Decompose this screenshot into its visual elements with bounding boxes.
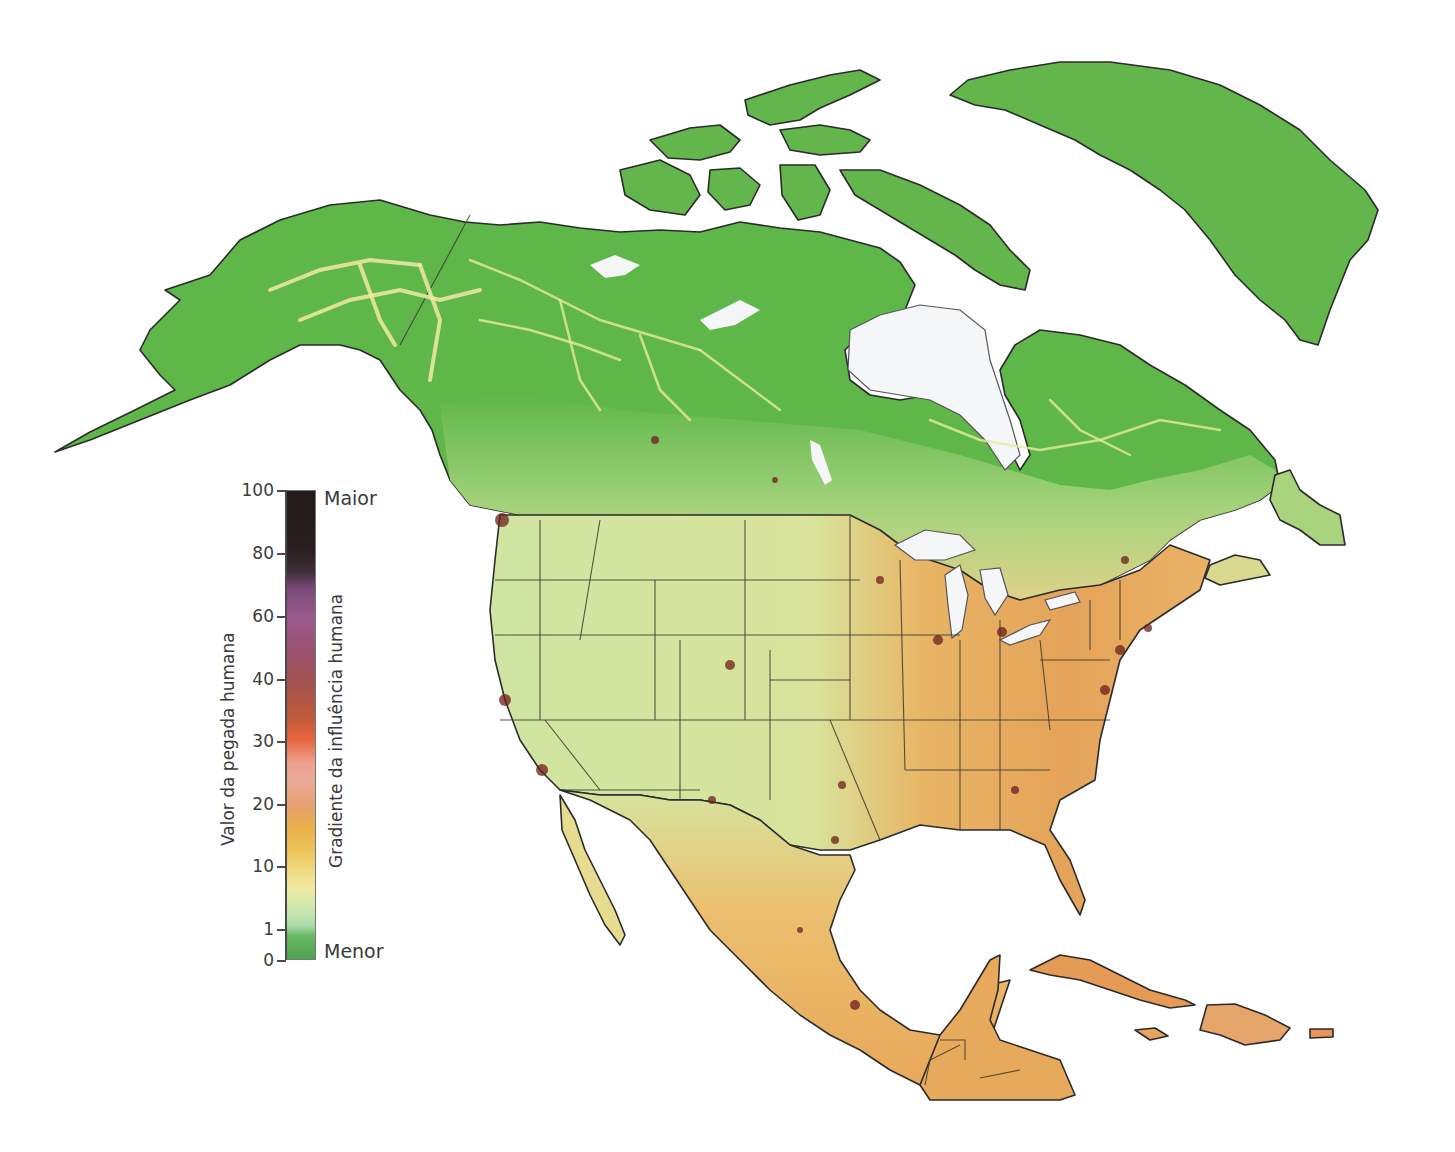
arctic-islands: [780, 165, 830, 220]
arctic-islands: [745, 70, 880, 125]
hispaniola: [1200, 1004, 1290, 1045]
newfoundland: [1270, 470, 1345, 545]
jamaica: [1135, 1028, 1168, 1040]
arctic-islands: [780, 125, 870, 155]
central-america: [920, 955, 1075, 1100]
arctic-islands: [620, 160, 700, 215]
greenland: [950, 62, 1378, 345]
nova-scotia: [1205, 555, 1270, 585]
north-america-map: [0, 0, 1455, 1152]
arctic-islands: [650, 125, 740, 160]
cuba: [1030, 955, 1195, 1008]
puerto-rico: [1310, 1029, 1333, 1038]
baja-california: [560, 795, 625, 945]
arctic-islands: [708, 168, 760, 210]
